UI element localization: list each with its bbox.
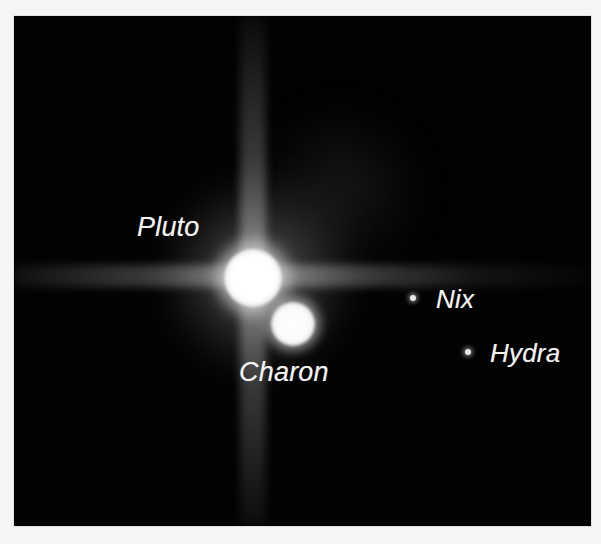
page: Pluto Charon Nix Hydra — [0, 0, 601, 544]
charon-disc — [271, 302, 315, 346]
pluto-label: Pluto — [137, 214, 200, 241]
astronomical-image: Pluto Charon Nix Hydra — [14, 16, 591, 526]
charon-label: Charon — [239, 359, 329, 386]
pluto-disc — [224, 249, 282, 307]
nix-dot — [410, 295, 416, 301]
nix-label: Nix — [436, 286, 474, 312]
hydra-label: Hydra — [490, 340, 560, 366]
hydra-dot — [465, 349, 471, 355]
